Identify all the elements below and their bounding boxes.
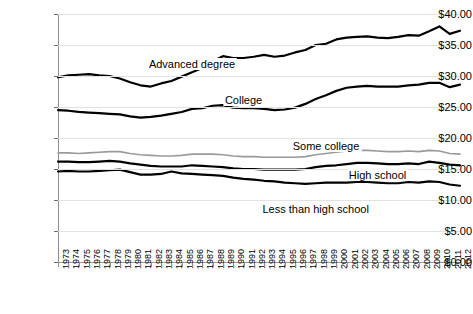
x-axis-tick	[408, 263, 409, 267]
x-axis-tick	[429, 263, 430, 267]
y-axis-tick	[54, 107, 58, 108]
x-axis-tick-label: 1975	[83, 249, 92, 269]
x-axis-tick	[99, 263, 100, 267]
x-axis-tick	[120, 263, 121, 267]
x-axis-tick	[419, 263, 420, 267]
x-axis-tick	[161, 263, 162, 267]
x-axis-tick-label: 1977	[103, 249, 112, 269]
series-label-less-than-high-school: Less than high school	[260, 203, 370, 215]
x-axis-tick-label: 1994	[278, 249, 287, 269]
x-axis-tick	[58, 263, 59, 267]
x-axis-tick-label: 2011	[454, 250, 463, 269]
x-axis-tick-label: 1982	[155, 249, 164, 269]
x-axis-tick	[140, 263, 141, 267]
x-axis-tick-label: 2000	[340, 249, 349, 269]
x-axis-tick	[285, 263, 286, 267]
x-axis-tick	[439, 263, 440, 267]
x-axis-tick	[202, 263, 203, 267]
x-axis-tick-label: 1983	[165, 249, 174, 269]
x-axis-tick-label: 2008	[423, 249, 432, 269]
x-axis-tick	[89, 263, 90, 267]
x-axis-tick	[233, 263, 234, 267]
x-axis-tick	[398, 263, 399, 267]
series-label-advanced-degree: Advanced degree	[147, 58, 237, 70]
x-axis-tick-label: 2007	[412, 249, 421, 269]
y-axis-tick	[54, 200, 58, 201]
x-axis-tick	[264, 263, 265, 267]
x-axis-tick	[316, 263, 317, 267]
x-axis-tick	[254, 263, 255, 267]
x-axis-tick-label: 2003	[371, 249, 380, 269]
x-axis-tick	[347, 263, 348, 267]
x-axis-tick-label: 2005	[392, 249, 401, 269]
x-axis-tick-label: 2012	[464, 249, 473, 269]
x-axis-tick-label: 2010	[443, 249, 452, 269]
series-line	[58, 26, 460, 86]
x-axis-tick	[68, 263, 69, 267]
y-axis-tick	[54, 76, 58, 77]
y-axis-tick-label: $30.00	[420, 71, 472, 81]
y-axis-tick-label: $10.00	[420, 195, 472, 205]
x-axis-tick-label: 1978	[114, 249, 123, 269]
x-axis-tick	[326, 263, 327, 267]
x-axis-tick	[223, 263, 224, 267]
x-axis-tick	[450, 263, 451, 267]
gridline	[58, 138, 460, 139]
x-axis-tick-label: 1993	[268, 249, 277, 269]
gridline	[58, 200, 460, 201]
series-line	[58, 150, 460, 157]
x-axis-tick-label: 1980	[134, 249, 143, 269]
x-axis-tick-label: 1990	[237, 249, 246, 269]
x-axis-tick	[378, 263, 379, 267]
x-axis-tick	[295, 263, 296, 267]
y-axis-tick-label: $15.00	[420, 164, 472, 174]
series-label-some-college: Some college	[291, 140, 362, 152]
x-axis-tick-label: 1988	[217, 249, 226, 269]
x-axis-tick-label: 2009	[433, 249, 442, 269]
y-axis-tick-label: $25.00	[420, 102, 472, 112]
gridline	[58, 107, 460, 108]
x-axis-tick-label: 1989	[227, 249, 236, 269]
gridline	[58, 14, 460, 15]
x-axis-tick	[305, 263, 306, 267]
series-label-high-school: High school	[347, 169, 408, 181]
gridline	[58, 231, 460, 232]
x-axis-tick	[336, 263, 337, 267]
x-axis-tick-label: 1986	[196, 249, 205, 269]
x-axis-tick	[357, 263, 358, 267]
x-axis-tick-label: 1987	[206, 249, 215, 269]
x-axis-tick	[274, 263, 275, 267]
y-axis-tick-label: $5.00	[420, 226, 472, 236]
x-axis-tick-label: 1984	[175, 249, 184, 269]
x-axis-tick-label: 1996	[299, 249, 308, 269]
x-axis-tick-label: 1974	[72, 249, 81, 269]
x-axis-tick-label: 1995	[289, 249, 298, 269]
x-axis-tick	[367, 263, 368, 267]
x-axis-tick	[151, 263, 152, 267]
x-axis-tick-label: 1973	[62, 249, 71, 269]
x-axis-tick	[213, 263, 214, 267]
y-axis-tick	[54, 14, 58, 15]
y-axis-tick	[54, 138, 58, 139]
x-axis-tick-label: 1981	[144, 249, 153, 269]
x-axis-tick	[244, 263, 245, 267]
x-axis-tick-label: 1997	[309, 249, 318, 269]
y-axis-tick-label: $40.00	[420, 9, 472, 19]
y-axis-tick-label: $20.00	[420, 133, 472, 143]
x-axis-tick-label: 2001	[351, 249, 360, 269]
x-axis-tick-label: 2002	[361, 249, 370, 269]
x-axis-tick	[79, 263, 80, 267]
x-axis-tick	[171, 263, 172, 267]
x-axis-tick-label: 2004	[382, 249, 391, 269]
x-axis-tick-label: 1979	[124, 249, 133, 269]
x-axis-tick	[460, 263, 461, 267]
x-axis-tick-label: 1992	[258, 249, 267, 269]
gridline	[58, 45, 460, 46]
x-axis-tick	[130, 263, 131, 267]
x-axis-tick	[182, 263, 183, 267]
x-axis-tick-label: 1998	[320, 249, 329, 269]
y-axis-tick	[54, 231, 58, 232]
x-axis-tick-label: 1985	[186, 249, 195, 269]
y-axis-tick	[54, 169, 58, 170]
